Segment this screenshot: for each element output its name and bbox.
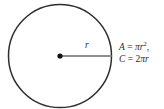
area-formula-equals: = <box>125 42 135 52</box>
area-formula-trailing: , <box>147 42 149 52</box>
radius-label: r <box>85 41 89 51</box>
formula-block: A = πr2, C = 2πr <box>119 42 149 65</box>
area-formula: A = πr2, <box>119 42 149 54</box>
circle-formula-figure: r A = πr2, C = 2πr <box>0 0 164 109</box>
center-dot <box>57 53 62 58</box>
circumference-formula-variable: r <box>145 54 149 64</box>
circumference-formula-equals: = <box>125 54 135 64</box>
circumference-formula: C = 2πr <box>119 54 149 66</box>
